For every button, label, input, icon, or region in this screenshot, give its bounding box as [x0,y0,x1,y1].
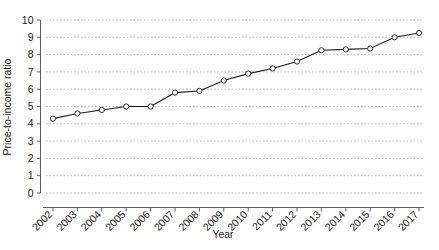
data-point-2003 [75,111,80,116]
y-tick-label-7: 7 [28,66,34,78]
x-tick-label-2012: 2012 [273,208,298,233]
x-tick-label-2002: 2002 [29,208,54,233]
y-tick-label-9: 9 [28,31,34,43]
y-tick-label-5: 5 [28,100,34,112]
y-tick-label-0: 0 [28,187,34,199]
x-tick-label-2006: 2006 [127,208,152,233]
x-tick-label-2016: 2016 [371,208,396,233]
y-axis: 012345678910 [22,14,41,199]
y-tick-label-3: 3 [28,135,34,147]
data-point-2015 [368,46,373,51]
data-point-2007 [172,90,177,95]
data-line-price-to-income-ratio [53,33,419,119]
y-tick-label-1: 1 [28,169,34,181]
data-point-2006 [148,104,153,109]
data-point-2011 [270,66,275,71]
x-tick-label-2003: 2003 [54,208,79,233]
data-point-2005 [124,104,129,109]
x-tick-label-2017: 2017 [395,208,420,233]
data-point-2017 [416,30,421,35]
data-point-2004 [99,107,104,112]
y-tick-label-2: 2 [28,152,34,164]
data-point-2009 [221,78,226,83]
data-point-markers [50,30,421,121]
line-chart: 012345678910 200220032004200520062007200… [0,0,439,250]
y-tick-label-8: 8 [28,48,34,60]
x-tick-label-2007: 2007 [151,208,176,233]
x-tick-label-2011: 2011 [250,208,275,233]
y-axis-ticks [37,20,41,193]
x-tick-label-2013: 2013 [298,208,323,233]
y-axis-title: Price-to-income ratio [1,58,13,155]
x-axis-title: Year [212,228,234,240]
data-point-2016 [392,35,397,40]
data-point-2013 [319,48,324,53]
x-tick-label-2008: 2008 [176,208,201,233]
x-tick-label-2014: 2014 [322,208,347,233]
y-tick-label-4: 4 [28,117,34,129]
x-tick-label-2015: 2015 [347,208,372,233]
data-point-2012 [294,59,299,64]
y-tick-label-10: 10 [22,14,34,26]
chart-container: 012345678910 200220032004200520062007200… [0,0,439,250]
y-tick-label-6: 6 [28,83,34,95]
x-tick-label-2005: 2005 [103,208,128,233]
data-point-2010 [246,71,251,76]
x-tick-label-2004: 2004 [78,208,103,233]
data-point-2014 [343,47,348,52]
gridlines [46,20,424,193]
y-axis-tick-labels: 012345678910 [22,14,34,199]
data-point-2002 [50,116,55,121]
data-point-2008 [197,88,202,93]
